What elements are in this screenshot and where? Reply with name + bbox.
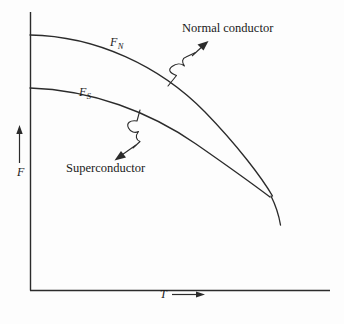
curve-tag-fs-subscript: S [87, 91, 91, 101]
y-axis-label: F [17, 166, 24, 178]
superconductor-label: Superconductor [66, 162, 145, 175]
superconductor-leader-icon [115, 110, 141, 161]
normal-conductor-label: Normal conductor [182, 22, 273, 35]
curve-tag-fn-subscript: N [118, 41, 124, 51]
curve-tag-fs-letter: F [79, 85, 86, 99]
curve-tag-fs: FS [79, 86, 91, 98]
x-axis-label: T [160, 288, 167, 300]
normal-conductor-leader-icon [168, 41, 209, 86]
figure-canvas [0, 0, 344, 324]
x-axis-arrow-icon [172, 291, 205, 297]
y-axis-arrow-icon [16, 125, 22, 163]
free-energy-vs-temperature-figure: Normal conductor Superconductor FN FS F … [0, 0, 344, 324]
curve-tag-fn-letter: F [110, 35, 117, 49]
curve-merged-branch [271, 196, 281, 225]
curve-superconductor [30, 88, 270, 197]
curve-tag-fn: FN [110, 36, 123, 48]
